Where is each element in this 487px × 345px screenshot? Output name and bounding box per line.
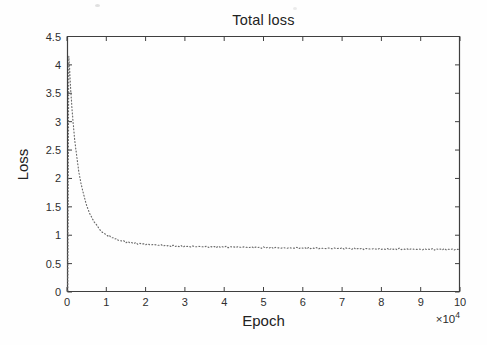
x-tick-label: 6 — [300, 296, 306, 308]
x-axis-exponent-label: ×104 — [436, 310, 460, 325]
y-tick-label: 4.5 — [46, 31, 61, 43]
x-tick-label: 8 — [378, 296, 384, 308]
x-tick-label: 10 — [454, 296, 466, 308]
y-tick-label: 2 — [55, 172, 61, 184]
x-tick-label: 2 — [143, 296, 149, 308]
plot-frame — [68, 37, 460, 292]
y-tick-label: 1.5 — [46, 201, 61, 213]
y-axis-label: Loss — [14, 129, 31, 201]
x-tick-label: 5 — [260, 296, 266, 308]
scan-artifact — [293, 7, 297, 10]
y-tick-label: 4 — [55, 59, 61, 71]
y-tick-label: 3 — [55, 116, 61, 128]
x-tick-label: 4 — [221, 296, 227, 308]
y-tick-label: 1 — [55, 229, 61, 241]
x-tick-label: 1 — [103, 296, 109, 308]
y-tick-label: 0 — [55, 286, 61, 298]
x-tick-label: 3 — [182, 296, 188, 308]
chart-canvas: 01234567891000.511.522.533.544.5 — [0, 0, 487, 345]
y-tick-label: 3.5 — [46, 87, 61, 99]
figure-window: 01234567891000.511.522.533.544.5 Total l… — [0, 0, 487, 345]
x-tick-label: 9 — [418, 296, 424, 308]
y-tick-label: 0.5 — [46, 258, 61, 270]
x-axis-label: Epoch — [67, 312, 460, 329]
scan-artifact — [95, 4, 100, 7]
x-tick-label: 7 — [339, 296, 345, 308]
x-axis-exponent-base: ×10 — [436, 313, 456, 325]
x-axis-exponent-power: 4 — [455, 310, 460, 320]
chart-title: Total loss — [67, 12, 460, 28]
x-tick-label: 0 — [64, 296, 70, 308]
y-tick-label: 2.5 — [46, 144, 61, 156]
total-loss-curve — [68, 56, 460, 291]
